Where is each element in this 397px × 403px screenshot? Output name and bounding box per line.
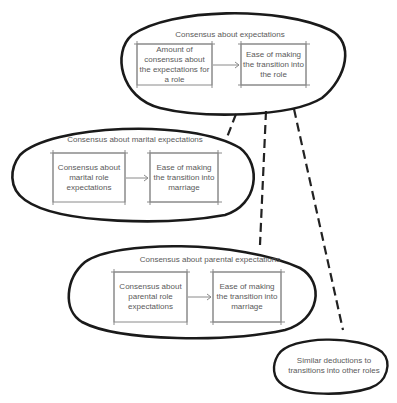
other-roles-text: Similar deductions to transitions into o…	[288, 348, 380, 384]
box-marital-effect-text: Ease of making the transition into marri…	[152, 153, 216, 202]
connector-general-parental	[260, 111, 266, 245]
group-title-general: Consensus about expectations	[165, 30, 295, 40]
connector-general-marital	[226, 114, 236, 140]
box-marital-cause-text: Consensus about marital role expectation…	[56, 153, 122, 202]
connector-general-other	[294, 109, 343, 330]
box-general-effect-text: Ease of making the transition into the r…	[243, 44, 304, 85]
group-title-parental: Consensus about parental expectations	[120, 255, 300, 265]
box-general-cause-text: Amount of consensus about the expectatio…	[139, 44, 210, 85]
box-parental-cause-text: Consensus about parental role expectatio…	[117, 272, 184, 322]
group-title-marital: Consensus about marital expectations	[50, 135, 220, 145]
box-parental-effect-text: Ease of making the transition into marri…	[215, 272, 279, 322]
